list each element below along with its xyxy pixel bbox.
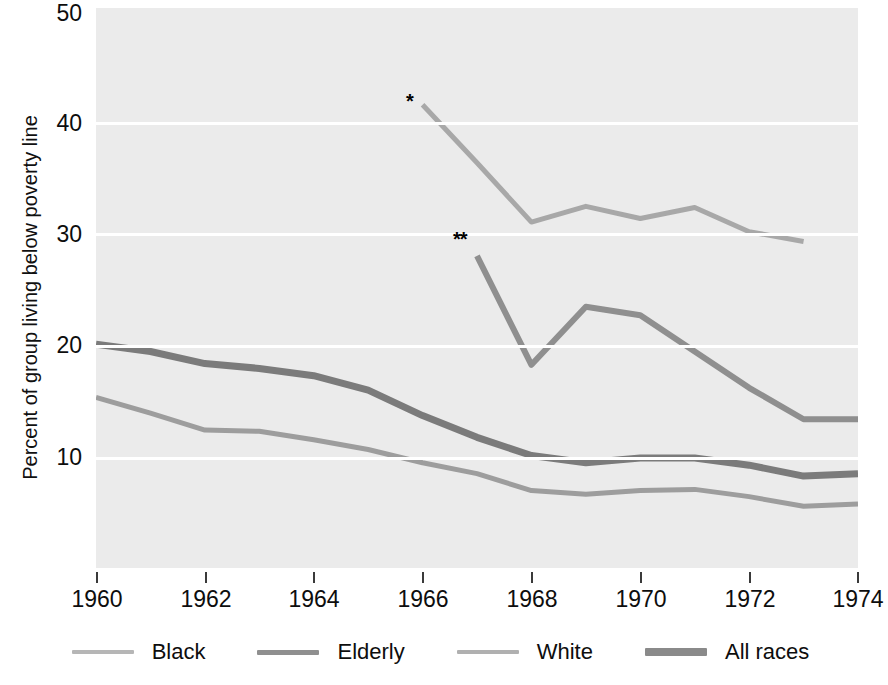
y-tick-40: 40: [40, 110, 82, 137]
gridline-30: [96, 233, 858, 236]
x-tickmark-1966: [422, 572, 424, 583]
legend-label-black: Black: [152, 639, 206, 665]
line-white: [96, 397, 858, 506]
y-tick-20: 20: [40, 332, 82, 359]
gridline-10: [96, 457, 858, 460]
x-tick-1962: 1962: [161, 586, 251, 613]
x-tick-1964: 1964: [269, 586, 359, 613]
x-tick-1970: 1970: [596, 586, 686, 613]
x-tick-1968: 1968: [487, 586, 577, 613]
y-tick-10: 10: [40, 444, 82, 471]
line-black: [423, 105, 804, 242]
legend-label-all-races: All races: [725, 639, 809, 665]
x-tickmark-1970: [640, 572, 642, 583]
legend-item-black: Black: [72, 639, 258, 665]
legend-swatch-white: [457, 650, 519, 654]
x-tickmark-1968: [531, 572, 533, 583]
legend-label-white: White: [537, 639, 593, 665]
legend-item-white: White: [457, 639, 645, 665]
x-tickmark-1964: [313, 572, 315, 583]
x-tick-1966: 1966: [378, 586, 468, 613]
x-tick-1974: 1974: [813, 586, 888, 613]
gridline-40: [96, 122, 858, 125]
legend-swatch-all-races: [645, 648, 707, 656]
x-tickmark-1972: [749, 572, 751, 583]
annotation-asterisk-double: **: [453, 229, 467, 249]
line-elderly: [477, 256, 858, 419]
gridline-20: [96, 345, 858, 348]
series-lines: [96, 8, 858, 568]
x-tickmark-1960: [96, 572, 98, 583]
y-tick-30: 30: [40, 221, 82, 248]
legend-item-elderly: Elderly: [257, 639, 456, 665]
y-tick-50: 50: [40, 0, 82, 27]
legend-item-all-races: All races: [645, 639, 809, 665]
x-tickmark-1962: [205, 572, 207, 583]
annotation-asterisk-single: *: [406, 91, 413, 111]
x-tick-1972: 1972: [705, 586, 795, 613]
legend-label-elderly: Elderly: [337, 639, 404, 665]
x-tickmark-1974: [857, 572, 859, 583]
x-tick-1960: 1960: [52, 586, 142, 613]
legend-swatch-elderly: [257, 650, 319, 655]
chart-legend: Black Elderly White All races: [0, 632, 881, 672]
y-axis-tick-labels: 50 40 30 20 10: [20, 0, 82, 685]
plot-area: * **: [96, 8, 858, 568]
legend-swatch-black: [72, 650, 134, 654]
